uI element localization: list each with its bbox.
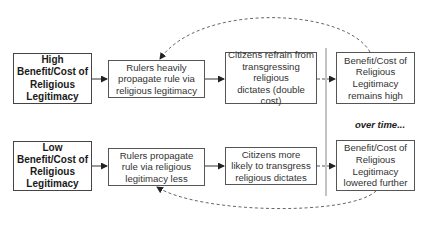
- box-line: Legitimacy: [344, 166, 408, 178]
- box-line: legitimacy less: [120, 173, 194, 185]
- box-line: religious: [228, 72, 314, 84]
- box-low-benefit-cost: Low Benefit/Cost of Religious Legitimacy: [13, 141, 92, 191]
- box-high-benefit-cost: High Benefit/Cost of Religious Legitimac…: [13, 53, 92, 104]
- box-line: Rulers heavily: [116, 62, 197, 74]
- box-line: dictates (double cost): [228, 84, 314, 107]
- box-line: Benefit/Cost of: [17, 66, 88, 78]
- box-lowered-further: Benefit/Cost of Religious Legitimacy low…: [336, 140, 415, 191]
- box-line: likely to transgress: [231, 160, 310, 172]
- box-line: religious dictates: [231, 172, 310, 184]
- box-line: Religious: [17, 79, 88, 91]
- box-rulers-heavily-propagate: Rulers heavily propagate rule via religi…: [108, 60, 205, 98]
- box-line: High: [17, 54, 88, 66]
- box-line: Religious: [344, 154, 408, 166]
- box-line: Legitimacy: [17, 178, 88, 190]
- box-citizens-refrain: Citizens refrain from transgressing reli…: [225, 52, 317, 104]
- box-line: Citizens more: [231, 149, 310, 161]
- box-line: rule via religious: [120, 161, 194, 173]
- box-line: remains high: [344, 90, 407, 102]
- box-line: Citizens refrain from: [228, 49, 314, 61]
- box-line: Legitimacy: [17, 91, 88, 103]
- box-line: Benefit/Cost of: [17, 154, 88, 166]
- box-line: transgressing: [228, 61, 314, 73]
- box-line: religious legitimacy: [116, 85, 197, 97]
- box-citizens-more-likely: Citizens more likely to transgress relig…: [225, 147, 317, 185]
- box-line: Benefit/Cost of: [344, 142, 408, 154]
- box-line: Benefit/Cost of: [344, 55, 407, 67]
- box-line: Legitimacy: [344, 78, 407, 90]
- box-line: Religious: [344, 66, 407, 78]
- box-line: Religious: [17, 166, 88, 178]
- box-remains-high: Benefit/Cost of Religious Legitimacy rem…: [336, 52, 415, 104]
- box-line: Low: [17, 142, 88, 154]
- box-line: Rulers propagate: [120, 150, 194, 162]
- box-line: propagate rule via: [116, 73, 197, 85]
- box-rulers-propagate-less: Rulers propagate rule via religious legi…: [108, 148, 205, 186]
- box-line: lowered further: [344, 177, 408, 189]
- over-time-label: over time...: [345, 119, 415, 130]
